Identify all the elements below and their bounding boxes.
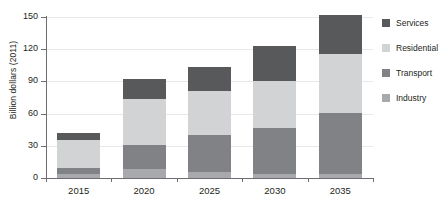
y-tick-label: 150 (6, 12, 38, 21)
bar-segment-residential[interactable] (57, 140, 100, 168)
bar-segment-residential[interactable] (123, 99, 166, 145)
bar-2020[interactable] (123, 79, 166, 178)
legend-label: Industry (396, 93, 426, 103)
legend-swatch-services (382, 19, 390, 27)
bar-segment-industry[interactable] (123, 169, 166, 178)
bar-segment-transport[interactable] (188, 135, 231, 171)
bar-segment-industry[interactable] (319, 174, 362, 178)
legend-item-services[interactable]: Services (382, 12, 448, 33)
bar-2025[interactable] (188, 67, 231, 178)
y-tick-label: 60 (6, 109, 38, 118)
bar-segment-industry[interactable] (253, 174, 296, 178)
x-tick-label-2020: 2020 (114, 186, 174, 196)
x-tick-mark (373, 178, 374, 182)
legend: ServicesResidentialTransportIndustry (382, 12, 448, 112)
x-tick-mark (242, 178, 243, 182)
bar-segment-transport[interactable] (123, 145, 166, 170)
x-axis-line (46, 178, 373, 179)
bar-segment-services[interactable] (57, 133, 100, 141)
legend-label: Services (396, 18, 429, 28)
x-tick-mark (111, 178, 112, 182)
y-tick-label: 0 (6, 173, 38, 182)
stacked-bar-chart: Billion dollars (2011) 0306090120150 201… (0, 0, 448, 211)
x-tick-mark (46, 178, 47, 182)
legend-swatch-transport (382, 69, 390, 77)
x-tick-mark (177, 178, 178, 182)
bar-segment-services[interactable] (319, 15, 362, 54)
x-tick-label-2015: 2015 (49, 186, 109, 196)
x-tick-label-2030: 2030 (245, 186, 305, 196)
bar-2015[interactable] (57, 133, 100, 178)
bar-segment-industry[interactable] (57, 174, 100, 178)
bar-2035[interactable] (319, 15, 362, 178)
legend-item-industry[interactable]: Industry (382, 87, 448, 108)
plot-area (46, 17, 373, 178)
legend-swatch-industry (382, 94, 390, 102)
bar-segment-industry[interactable] (188, 172, 231, 178)
bar-segment-residential[interactable] (253, 81, 296, 127)
y-tick-label: 30 (6, 141, 38, 150)
legend-label: Residential (396, 43, 438, 53)
x-tick-label-2025: 2025 (180, 186, 240, 196)
bar-2030[interactable] (253, 46, 296, 178)
bar-segment-transport[interactable] (253, 128, 296, 174)
legend-item-transport[interactable]: Transport (382, 62, 448, 83)
bar-segment-services[interactable] (253, 46, 296, 81)
bar-segment-transport[interactable] (319, 113, 362, 174)
bar-segment-services[interactable] (123, 79, 166, 98)
legend-label: Transport (396, 68, 432, 78)
bar-segment-residential[interactable] (319, 54, 362, 113)
legend-swatch-residential (382, 44, 390, 52)
bar-segment-residential[interactable] (188, 91, 231, 135)
y-tick-label: 90 (6, 76, 38, 85)
y-tick-label: 120 (6, 44, 38, 53)
x-tick-mark (308, 178, 309, 182)
legend-item-residential[interactable]: Residential (382, 37, 448, 58)
x-tick-label-2035: 2035 (310, 186, 370, 196)
bar-segment-services[interactable] (188, 67, 231, 91)
